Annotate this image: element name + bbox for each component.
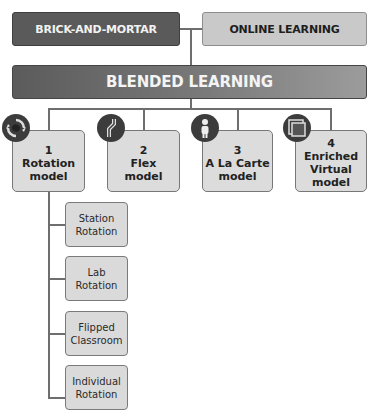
submodel-label-line1: Flipped <box>78 321 115 334</box>
submodel-label-line1: Lab <box>87 266 105 279</box>
online-learning-label: ONLINE LEARNING <box>229 23 339 36</box>
submodel-label-line1: Station <box>79 212 115 225</box>
online-learning-box: ONLINE LEARNING <box>202 12 367 46</box>
submodel-label-line2: Rotation <box>76 279 118 292</box>
model-title: Flex <box>131 157 157 170</box>
connector-blended-down <box>190 99 192 108</box>
connector-model-2 <box>143 108 145 130</box>
model-number: 4 <box>327 137 335 150</box>
connector-top-vertical <box>190 28 192 65</box>
rotation-arrows-icon <box>2 114 30 142</box>
connector-sub-1 <box>48 224 65 226</box>
connector-sub-2 <box>48 278 65 280</box>
brick-and-mortar-label: BRICK-AND-MORTAR <box>35 23 156 36</box>
connector-sub-4 <box>48 397 65 399</box>
model-title: A La Carte <box>205 157 269 170</box>
flex-path-icon <box>97 114 125 142</box>
connector-model-3 <box>237 108 239 130</box>
model-title: Enriched <box>304 150 358 163</box>
model-number: 1 <box>45 144 53 157</box>
model-number: 2 <box>140 144 148 157</box>
model-subtitle: model <box>29 170 67 183</box>
connector-model-1 <box>48 108 50 130</box>
brick-and-mortar-box: BRICK-AND-MORTAR <box>12 12 180 46</box>
model-number: 3 <box>234 144 242 157</box>
submodel-label-line2: Rotation <box>76 225 118 238</box>
person-icon <box>191 114 219 142</box>
model-subtitle: model <box>312 176 350 189</box>
model-subtitle: model <box>124 170 162 183</box>
submodel-lab-rotation: Lab Rotation <box>65 256 128 301</box>
model-title: Rotation <box>22 157 75 170</box>
model-subtitle: model <box>218 170 256 183</box>
overlapping-squares-icon <box>283 114 311 142</box>
submodel-individual-rotation: Individual Rotation <box>65 365 128 410</box>
connector-sub-vertical <box>48 192 50 397</box>
blended-learning-label: BLENDED LEARNING <box>106 73 273 91</box>
connector-sub-3 <box>48 333 65 335</box>
connector-models-horizontal <box>48 108 331 110</box>
submodel-label-line1: Individual <box>72 375 121 388</box>
submodel-label-line2: Classroom <box>70 334 122 347</box>
submodel-flipped-classroom: Flipped Classroom <box>65 311 128 356</box>
connector-model-4 <box>330 108 332 130</box>
model-box-enriched-virtual: 4 Enriched Virtual model <box>295 130 367 192</box>
submodel-station-rotation: Station Rotation <box>65 202 128 247</box>
blended-learning-box: BLENDED LEARNING <box>12 65 367 99</box>
submodel-label-line2: Rotation <box>76 388 118 401</box>
model-title-2: Virtual <box>310 163 352 176</box>
